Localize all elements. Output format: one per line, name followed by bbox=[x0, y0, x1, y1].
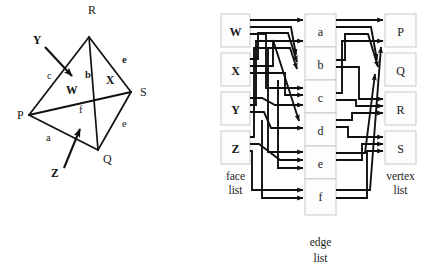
figure-canvas: P Q R S a b c e e f W X Y Z bbox=[0, 0, 426, 278]
face-list-caption-line1: face bbox=[226, 170, 245, 182]
edge-list-item-f-label: f bbox=[319, 190, 323, 204]
face-list-item-W[interactable]: W bbox=[221, 14, 250, 47]
face-list-item-Z-label: Z bbox=[231, 142, 239, 156]
vertex-label-S: S bbox=[140, 85, 147, 99]
vertex-list-item-Q-label: Q bbox=[396, 64, 405, 78]
vertex-list-caption-line1: vertex bbox=[386, 170, 415, 182]
vertex-list-item-S-label: S bbox=[397, 142, 404, 156]
face-label-Z: Z bbox=[51, 167, 59, 179]
edge-label-a: a bbox=[46, 132, 51, 143]
vertex-list-item-S[interactable]: S bbox=[385, 131, 416, 164]
edge-list-caption-line2: list bbox=[313, 252, 328, 264]
vertex-label-R: R bbox=[88, 3, 96, 17]
edge-list-item-b[interactable]: b bbox=[305, 47, 336, 80]
figure-svg: P Q R S a b c e e f W X Y Z bbox=[0, 0, 426, 278]
edge-list-item-f[interactable]: f bbox=[305, 179, 336, 215]
face-list-item-W-label: W bbox=[230, 25, 242, 39]
edge-list-caption-line1: edge bbox=[310, 236, 332, 249]
face-list-item-X-label: X bbox=[231, 64, 240, 78]
edge-list-item-c[interactable]: c bbox=[305, 80, 336, 113]
edge-label-f: f bbox=[79, 104, 83, 115]
face-list-item-Z[interactable]: Z bbox=[221, 131, 250, 164]
edge-list-item-d-label: d bbox=[318, 124, 324, 138]
edge-list-item-a[interactable]: a bbox=[305, 14, 336, 47]
vertex-list-item-R-label: R bbox=[396, 103, 404, 117]
edge-label-c: c bbox=[47, 70, 52, 81]
face-list-item-X[interactable]: X bbox=[221, 53, 250, 86]
face-label-X: X bbox=[106, 74, 115, 86]
face-list-item-Y[interactable]: Y bbox=[221, 92, 250, 125]
vertex-list-item-Q[interactable]: Q bbox=[385, 53, 416, 86]
edge-list-item-d[interactable]: d bbox=[305, 113, 336, 146]
edge-list-item-c-label: c bbox=[318, 91, 323, 105]
vertex-list-item-P[interactable]: P bbox=[385, 14, 416, 47]
edge-label-e: e bbox=[122, 118, 127, 129]
edge-list-item-e[interactable]: e bbox=[305, 146, 336, 179]
edge-list-item-b-label: b bbox=[318, 58, 324, 72]
edge-label-d: e bbox=[122, 54, 127, 65]
vertex-list-item-R[interactable]: R bbox=[385, 92, 416, 125]
face-label-Y: Y bbox=[33, 34, 42, 46]
edge-label-b: b bbox=[85, 69, 91, 80]
face-list-item-Y-label: Y bbox=[231, 103, 240, 117]
vertex-label-P: P bbox=[17, 108, 24, 122]
edge-list-item-a-label: a bbox=[318, 25, 324, 39]
vertex-list-caption-line2: list bbox=[393, 184, 408, 196]
edge-list-item-e-label: e bbox=[318, 157, 323, 171]
face-list-caption-line2: list bbox=[228, 184, 243, 196]
vertex-list-item-P-label: P bbox=[397, 25, 404, 39]
face-label-W: W bbox=[66, 84, 78, 96]
vertex-label-Q: Q bbox=[103, 152, 112, 166]
